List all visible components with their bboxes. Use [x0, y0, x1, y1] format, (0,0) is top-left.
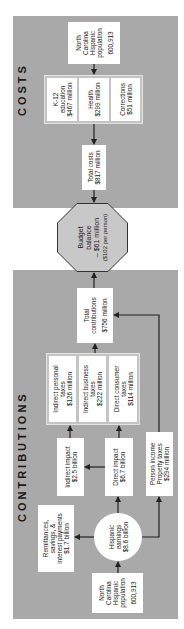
corrections-box: Corrections $51 million: [111, 78, 140, 121]
earnings-label: Hispanic: [108, 525, 115, 550]
indirect-impact-box: Indirect impact $2.5 billion: [57, 438, 84, 496]
total-costs-box: Total costs $817 million: [82, 145, 106, 190]
person-income-label: Person income: [149, 443, 156, 486]
direct-impact-value: $6.7 billion: [119, 452, 126, 483]
tax-label: taxes: [120, 381, 127, 396]
person-income-value: $294 million: [163, 447, 170, 481]
cost-label: Corrections: [119, 83, 126, 116]
hispanic-earnings-circle: Hispanic earnings $8.6 billion: [94, 513, 142, 561]
tax-value: $222 million: [96, 372, 103, 406]
tax-label: taxes: [59, 381, 66, 396]
total-contributions-label: contributions: [90, 297, 97, 333]
tax-value: $126 million: [66, 372, 73, 406]
indirect-personal-taxes-box: Indirect personal taxes $126 million: [49, 356, 76, 422]
contributions-title: CONTRIBUTIONS: [16, 391, 28, 522]
tax-value: $114 million: [127, 372, 134, 406]
remittances-value: $1.7 billion: [63, 523, 70, 554]
remittances-label: savings, &: [49, 524, 56, 553]
cost-label: education: [59, 86, 66, 114]
budget-label: Budget: [77, 226, 85, 248]
indirect-impact-value: $2.5 billion: [71, 452, 78, 483]
person-income-box: Person income Property taxes $294 millio…: [146, 432, 173, 496]
budget-balance-text: Budget balance – $61 million ($102 per p…: [72, 208, 114, 267]
budget-value: – $61 million: [93, 218, 101, 257]
budget-label: balance: [85, 225, 93, 250]
indirect-impact-label: Indirect impact: [64, 446, 71, 488]
budget-per-person: ($102 per person): [101, 214, 109, 262]
person-income-label: Property taxes: [156, 443, 163, 484]
costs-population-box: North Carolina Hispanic population 600,9…: [68, 22, 120, 64]
population-label: Carolina: [82, 31, 89, 55]
cost-label: K-12: [52, 93, 59, 107]
direct-impact-label: Direct impact: [112, 448, 119, 485]
population-label: North: [75, 35, 82, 51]
population-label: Hispanic: [89, 31, 96, 56]
cost-value: $51 million: [126, 84, 133, 115]
remittances-label: interest payments: [56, 513, 63, 563]
population-label: Carolina: [105, 581, 112, 605]
population-label: Hispanic: [112, 581, 119, 606]
population-label: population: [96, 28, 103, 58]
contributions-population-box: North Carolina Hispanic population 600,9…: [92, 573, 143, 613]
direct-impact-box: Direct impact $6.7 billion: [105, 438, 133, 496]
population-label: population: [119, 578, 126, 608]
population-value: 600,913: [107, 31, 114, 54]
earnings-value: $8.6 billion: [122, 522, 129, 553]
tax-label: Direct consumer: [113, 366, 120, 413]
earnings-label: earnings: [115, 525, 122, 550]
indirect-business-taxes-box: Indirect business taxes $222 million: [79, 356, 106, 422]
population-value: 600,913: [130, 581, 137, 604]
population-label: North: [98, 585, 105, 601]
total-contributions-value: $756 million: [101, 298, 108, 332]
cost-value: $299 million: [94, 82, 101, 116]
costs-title: COSTS: [16, 63, 28, 116]
total-contributions-label: Total: [83, 309, 90, 323]
remittances-label: Remittances,: [42, 520, 49, 557]
direct-consumer-taxes-box: Direct consumer taxes $114 million: [109, 356, 137, 422]
total-costs-value: $817 million: [94, 150, 101, 184]
budget-flow-diagram: CONTRIBUTIONS COSTS North Carolina Hispa…: [0, 0, 184, 629]
cost-label: Health: [87, 90, 94, 108]
tax-label: Indirect business: [82, 365, 89, 413]
tax-label: Indirect personal: [52, 365, 59, 412]
tax-label: taxes: [89, 381, 96, 396]
health-box: Health $299 million: [79, 78, 109, 121]
remittances-box: Remittances, savings, & interest payment…: [38, 505, 74, 572]
cost-value: $467 million: [66, 82, 73, 116]
total-costs-label: Total costs: [87, 152, 94, 182]
k12-education-box: K-12 education $467 million: [47, 78, 77, 121]
total-contributions-box: Total contributions $756 million: [77, 288, 113, 343]
